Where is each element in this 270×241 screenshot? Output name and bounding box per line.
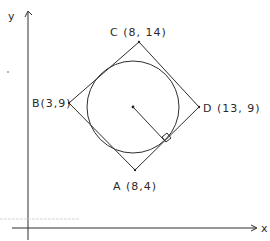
vertex-d	[198, 106, 200, 108]
diagram-canvas: y x C (8, 14) D (13, 9) A (8,4) B(3,9)	[0, 0, 270, 241]
vertex-c	[138, 41, 140, 43]
stray-dot	[7, 71, 9, 73]
label-d: D (13, 9)	[203, 102, 261, 115]
label-c: C (8, 14)	[110, 26, 167, 39]
x-axis	[12, 225, 257, 231]
label-b: B(3,9)	[32, 97, 72, 110]
vertex-a	[134, 169, 136, 171]
y-axis-label: y	[8, 10, 16, 23]
radius-segment	[133, 107, 164, 140]
y-axis	[25, 11, 32, 240]
label-a: A (8,4)	[113, 180, 157, 193]
x-axis-label: x	[261, 222, 269, 235]
